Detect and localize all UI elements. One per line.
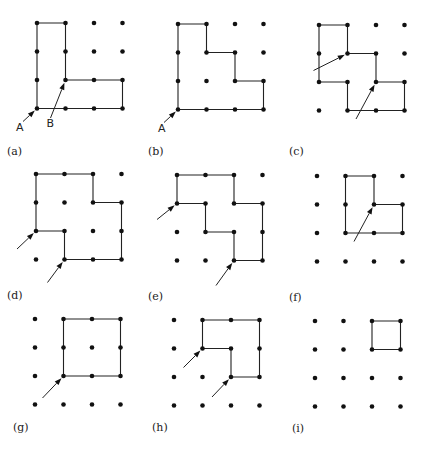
lattice-dot (260, 201, 265, 206)
lattice-dot (62, 229, 67, 234)
lattice-dot (118, 317, 123, 322)
lattice-dot (402, 23, 407, 28)
lattice-dot (372, 174, 377, 179)
lattice-dot (33, 374, 38, 379)
lattice-dot (175, 201, 180, 206)
panel-b: A(b) (148, 22, 266, 158)
lattice-dot (33, 345, 38, 350)
lattice-dot (372, 202, 377, 207)
pointer-arrow-icon (314, 55, 345, 71)
lattice-dot (92, 106, 97, 111)
lattice-dot (200, 346, 205, 351)
lattice-dot (172, 403, 177, 408)
point-label-b: B (47, 117, 55, 130)
lattice-dot (400, 259, 405, 264)
polygon-outline (36, 174, 122, 260)
lattice-dot (233, 22, 238, 27)
lattice-dot (176, 107, 181, 112)
lattice-dot (35, 21, 40, 26)
panel-e: (e) (148, 173, 265, 303)
panel-c: (c) (289, 23, 407, 158)
lattice-dot (33, 317, 38, 322)
lattice-dot (233, 107, 238, 112)
lattice-dot (370, 347, 375, 352)
lattice-dot (400, 174, 405, 179)
lattice-dot (204, 79, 209, 84)
lattice-dot (374, 23, 379, 28)
lattice-dot (119, 229, 124, 234)
lattice-dot (233, 79, 238, 84)
lattice-dot (398, 404, 403, 409)
lattice-dot (120, 78, 125, 83)
lattice-dot (175, 173, 180, 178)
lattice-dot (315, 231, 320, 236)
lattice-dot (91, 172, 96, 177)
lattice-dot (313, 404, 318, 409)
pointer-arrow-icon (184, 351, 201, 368)
lattice-dot (62, 200, 67, 205)
lattice-dot (118, 374, 123, 379)
lattice-dot (343, 259, 348, 264)
lattice-dot (370, 319, 375, 324)
lattice-dot (118, 345, 123, 350)
lattice-dot (398, 319, 403, 324)
panel-caption: (h) (152, 421, 168, 434)
lattice-dot (261, 50, 266, 55)
lattice-dot (118, 402, 123, 407)
lattice-dot (172, 318, 177, 323)
lattice-dot (345, 80, 350, 85)
polygon-outline (372, 321, 401, 350)
lattice-dot (61, 374, 66, 379)
lattice-dot (91, 229, 96, 234)
panels-group: AB(a)A(b)(c)(d)(e)(f)(g)(h)(i) (7, 21, 407, 435)
panel-i: (i) (292, 319, 403, 435)
lattice-dot (229, 375, 234, 380)
lattice-dot (261, 22, 266, 27)
lattice-dot (317, 51, 322, 56)
lattice-dot (345, 23, 350, 28)
lattice-dot (372, 259, 377, 264)
lattice-dot (341, 376, 346, 381)
lattice-dot (343, 202, 348, 207)
pointer-arrow-icon (51, 83, 65, 118)
lattice-dot (172, 346, 177, 351)
lattice-dot (374, 80, 379, 85)
lattice-dot (257, 346, 262, 351)
lattice-dot (92, 21, 97, 26)
lattice-dot (203, 173, 208, 178)
lattice-dot (260, 258, 265, 263)
panel-caption: (g) (13, 421, 29, 434)
pointer-arrow-icon (356, 85, 375, 119)
lattice-dot (204, 22, 209, 27)
lattice-dot (120, 49, 125, 54)
lattice-dot (261, 79, 266, 84)
lattice-dot (34, 257, 39, 262)
lattice-dot (62, 172, 67, 177)
lattice-polygon-figure: AB(a)A(b)(c)(d)(e)(f)(g)(h)(i) (0, 0, 422, 451)
pointer-arrow-icon (23, 111, 35, 122)
polygon-outline (37, 23, 123, 109)
lattice-dot (315, 202, 320, 207)
lattice-dot (260, 230, 265, 235)
lattice-dot (257, 375, 262, 380)
lattice-dot (119, 200, 124, 205)
lattice-dot (372, 231, 377, 236)
lattice-dot (229, 318, 234, 323)
lattice-dot (200, 318, 205, 323)
lattice-dot (176, 50, 181, 55)
panel-caption: (b) (148, 145, 164, 158)
lattice-dot (374, 108, 379, 113)
lattice-dot (229, 403, 234, 408)
lattice-dot (204, 107, 209, 112)
panel-d: (d) (7, 172, 124, 302)
lattice-dot (176, 79, 181, 84)
lattice-dot (402, 80, 407, 85)
lattice-dot (398, 347, 403, 352)
lattice-dot (260, 173, 265, 178)
lattice-dot (200, 375, 205, 380)
lattice-dot (341, 347, 346, 352)
lattice-dot (229, 346, 234, 351)
lattice-dot (34, 200, 39, 205)
lattice-dot (345, 108, 350, 113)
lattice-dot (402, 108, 407, 113)
